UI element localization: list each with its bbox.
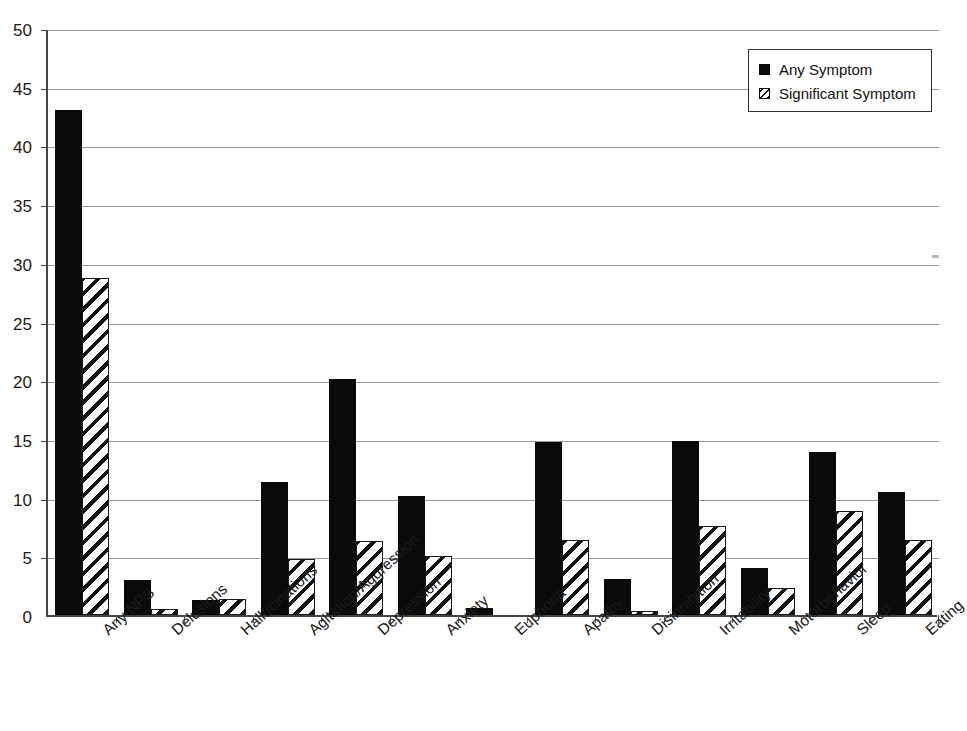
x-axis-label: Delusions (168, 625, 169, 626)
x-axis-label-text: Irritability (717, 625, 730, 639)
y-axis-tick-mark (41, 265, 48, 266)
y-axis-tick-mark (41, 30, 48, 31)
x-axis-label-text: Apathy (579, 625, 592, 639)
x-axis-label-text: Sleep (854, 625, 867, 639)
x-axis-label-text: Anxiety (442, 625, 455, 639)
legend-label-any-symptom: Any Symptom (779, 62, 872, 77)
y-axis-tick-label: 45 (13, 81, 32, 98)
x-axis-label: Euphoria (511, 625, 512, 626)
scan-artifact (932, 255, 939, 258)
plot-area (46, 30, 937, 617)
x-axis-label: Depression (374, 625, 375, 626)
y-axis-tick-label: 0 (23, 609, 32, 626)
y-axis-tick-mark (41, 147, 48, 148)
bar-significant-symptom (219, 599, 246, 615)
legend-item-significant-symptom: Significant Symptom (759, 81, 931, 105)
bar-group (596, 28, 665, 615)
y-axis-tick-label: 30 (13, 257, 32, 274)
legend-swatch-hatch-icon (759, 88, 770, 99)
bar-group (665, 28, 734, 615)
x-axis-label: Anxiety (442, 625, 443, 626)
y-axis-tick-mark (41, 206, 48, 207)
bar-any-symptom (329, 379, 356, 615)
x-axis-label-text: Motorbehavior (785, 625, 798, 639)
y-axis-tick-label: 20 (13, 374, 32, 391)
x-axis-label: Apathy (579, 625, 580, 626)
bar-group (185, 28, 254, 615)
legend-item-any-symptom: Any Symptom (759, 57, 931, 81)
bar-group (391, 28, 460, 615)
x-axis-label-text: Eating (922, 625, 935, 639)
x-axis-label: Eating (922, 625, 923, 626)
x-axis-labels: Any NPSDelusionsHallucinationsAgitation/… (46, 617, 937, 731)
x-axis-label: Hallucinations (237, 625, 238, 626)
y-axis-tick-mark (41, 558, 48, 559)
bar-group (322, 28, 391, 615)
y-axis-tick-mark (41, 441, 48, 442)
bar-significant-symptom (151, 609, 178, 615)
x-axis-label: Any NPS (99, 625, 100, 626)
bar-significant-symptom (631, 611, 658, 615)
bar-significant-symptom (562, 540, 589, 615)
bar-group (48, 28, 117, 615)
legend-swatch-solid-icon (759, 64, 770, 75)
bar-group (733, 28, 802, 615)
x-axis-label: Motorbehavior (785, 625, 786, 626)
x-axis-label: Disinhibition (648, 625, 649, 626)
y-axis-tick-label: 50 (13, 22, 32, 39)
bar-group (528, 28, 597, 615)
bar-any-symptom (878, 492, 905, 615)
bar-group (802, 28, 871, 615)
y-axis-tick-mark (41, 382, 48, 383)
bar-group (459, 28, 528, 615)
y-axis-tick-label: 40 (13, 139, 32, 156)
y-axis-tick-label: 35 (13, 198, 32, 215)
y-axis-tick-label: 25 (13, 316, 32, 333)
x-axis-label-text: Disinhibition (648, 625, 661, 639)
y-axis-tick-label: 10 (13, 492, 32, 509)
y-axis-tick-label: 5 (23, 550, 32, 567)
y-axis-labels: 05101520253035404550 (0, 30, 40, 617)
chart-title-cutoff (0, 0, 945, 7)
bar-group (117, 28, 186, 615)
x-axis-label-text: Depression (374, 625, 387, 639)
x-axis-label-text: Hallucinations (237, 625, 250, 639)
bar-group (870, 28, 939, 615)
x-axis-label: Sleep (853, 625, 854, 626)
x-axis-label-text: Any NPS (100, 625, 113, 639)
y-axis-tick-mark (41, 89, 48, 90)
x-axis-label: Irritability (716, 625, 717, 626)
x-axis-label: Agitation/Aggression (305, 625, 306, 626)
bar-significant-symptom (905, 540, 932, 615)
y-axis-tick-mark (41, 500, 48, 501)
x-axis-label-text: Euphoria (511, 625, 524, 639)
bar-any-symptom (55, 110, 82, 615)
bar-group (254, 28, 323, 615)
x-axis-label-text: Agitation/Aggression (305, 625, 318, 639)
x-axis-label-text: Delusions (168, 625, 181, 639)
legend-label-significant-symptom: Significant Symptom (779, 86, 916, 101)
bar-significant-symptom (699, 526, 726, 615)
legend: Any Symptom Significant Symptom (748, 49, 932, 112)
y-axis-tick-label: 15 (13, 433, 32, 450)
bar-significant-symptom (82, 278, 109, 615)
bar-significant-symptom (768, 588, 795, 615)
y-axis-tick-mark (41, 324, 48, 325)
